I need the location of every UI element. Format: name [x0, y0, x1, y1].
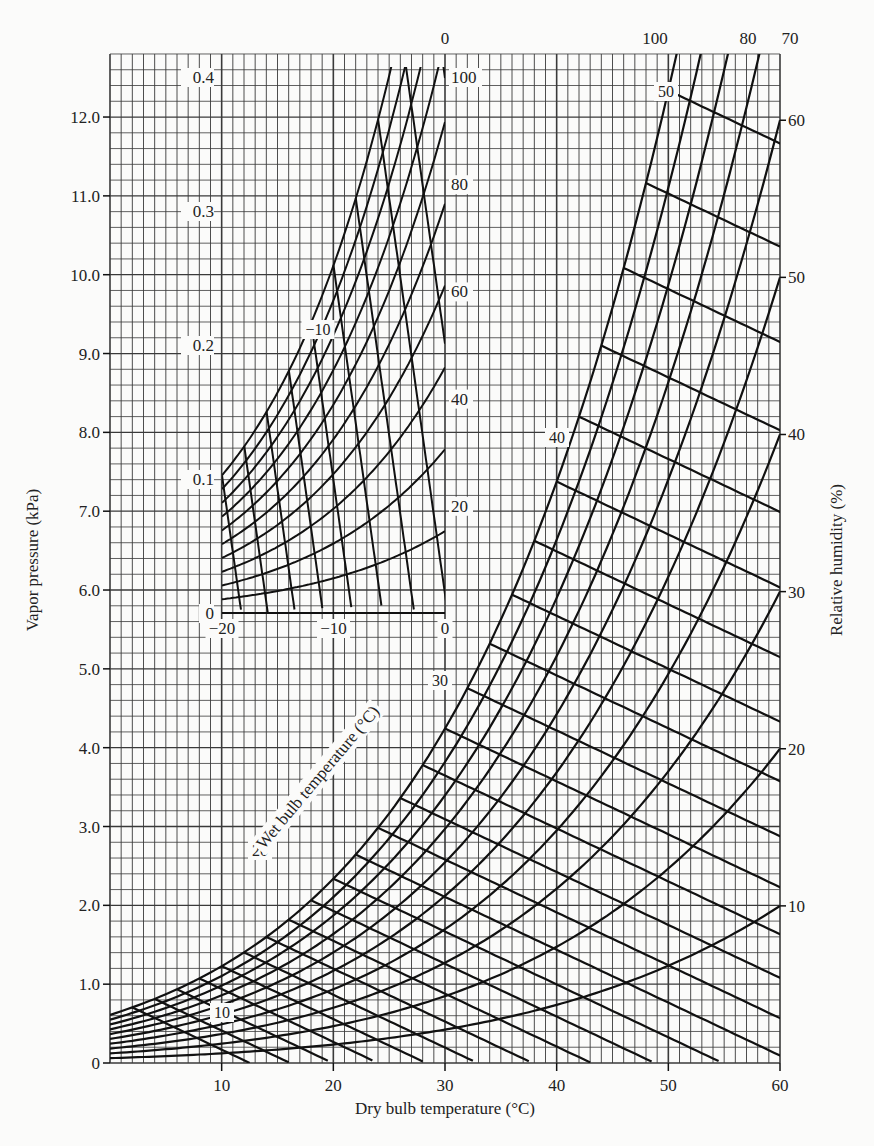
svg-text:0.3: 0.3 [193, 202, 214, 221]
inset-rh-label-80: 80 [449, 175, 473, 194]
inset-wet-bulb-line--10 [334, 265, 382, 605]
rh-label-80: 80 [740, 29, 757, 48]
svg-text:40: 40 [549, 429, 565, 446]
svg-text:0.1: 0.1 [193, 470, 214, 489]
rh-label-50: 50 [788, 268, 805, 287]
svg-text:40: 40 [451, 390, 468, 409]
inset-wet-bulb-line--14 [289, 371, 322, 608]
x-tick-label: 20 [325, 1076, 342, 1095]
inset-y-tick-label: 0.1 [181, 470, 214, 489]
svg-text:20: 20 [451, 497, 468, 516]
svg-text:0: 0 [441, 29, 450, 48]
y-tick-label: 9.0 [79, 345, 100, 364]
rh-label-70: 70 [782, 29, 799, 48]
y2-axis-title: Relative humidity (%) [827, 484, 846, 636]
rh-label-60: 60 [788, 111, 805, 130]
x-tick-label: 50 [660, 1076, 677, 1095]
x-axis-title: Dry bulb temperature (°C) [355, 1099, 535, 1118]
wet-bulb-line-18 [311, 900, 652, 1061]
y-tick-label: 5.0 [79, 660, 100, 679]
inset-y-tick-label: 0.4 [181, 68, 215, 87]
y-tick-label: 4.0 [79, 739, 100, 758]
inset-x-tick-label: −10 [317, 619, 350, 638]
inset-wet-bulb-label-minus10: −10 [302, 320, 335, 339]
y-tick-label: 0 [92, 1054, 101, 1073]
svg-text:0: 0 [441, 619, 450, 638]
inset-wet-bulb-line--8 [356, 198, 414, 609]
inset-x-tick-label: 0 [438, 619, 453, 638]
inset-wet-bulb-label-0: 0 [438, 29, 453, 48]
y-tick-label: 11.0 [71, 187, 100, 206]
svg-text:0.4: 0.4 [193, 68, 215, 87]
svg-text:−10: −10 [320, 619, 347, 638]
svg-text:100: 100 [451, 68, 477, 87]
y-axis-title: Vapor pressure (kPa) [23, 489, 42, 632]
svg-text:−10: −10 [305, 321, 330, 338]
y-tick-label: 3.0 [79, 818, 100, 837]
svg-text:30: 30 [432, 672, 448, 689]
y-tick-label: 2.0 [79, 896, 100, 915]
inset-rh-label-100: 100 [449, 68, 482, 87]
inset-rh-label-20: 20 [449, 497, 473, 516]
inset-x-tick-label: −20 [206, 619, 239, 638]
x-tick-label: 10 [213, 1076, 230, 1095]
inset-rh-label-60: 60 [449, 282, 473, 301]
y-tick-label: 12.0 [70, 108, 100, 127]
y-tick-label: 6.0 [79, 581, 100, 600]
wet-bulb-axis-title: Wet bulb temperature (°C) [253, 702, 384, 853]
rh-label-10: 10 [788, 897, 805, 916]
svg-text:50: 50 [658, 83, 674, 100]
inset-wet-bulb-line--6 [378, 119, 446, 602]
wet-bulb-label-50: 50 [654, 82, 678, 101]
y-tick-label: 8.0 [79, 423, 100, 442]
psychrometric-chart: 01.02.03.04.05.06.07.08.09.010.011.012.0… [0, 0, 874, 1146]
svg-text:60: 60 [451, 282, 468, 301]
rh-label-20: 20 [788, 740, 805, 759]
wet-bulb-label-40: 40 [545, 428, 569, 447]
x-tick-label: 30 [437, 1076, 454, 1095]
x-tick-label: 40 [548, 1076, 565, 1095]
inset-y-tick-label: 0.3 [181, 202, 214, 221]
y-tick-label: 1.0 [79, 975, 100, 994]
wet-bulb-label-30: 30 [428, 671, 452, 690]
rh-label-100: 100 [642, 29, 668, 48]
inset-rh-label-40: 40 [449, 390, 473, 409]
svg-text:10: 10 [214, 1004, 230, 1021]
svg-text:−20: −20 [209, 619, 236, 638]
y-tick-label: 7.0 [79, 502, 100, 521]
inset-wet-bulb-line--18 [244, 446, 267, 612]
svg-text:80: 80 [451, 175, 468, 194]
x-tick-label: 60 [772, 1076, 789, 1095]
inset-y-tick-label: 0.2 [181, 336, 214, 355]
svg-text:0.2: 0.2 [193, 336, 214, 355]
wet-bulb-line-22 [356, 855, 792, 1061]
rh-label-40: 40 [788, 425, 805, 444]
wet-bulb-label-10: 10 [210, 1003, 234, 1022]
rh-label-30: 30 [788, 583, 805, 602]
y-tick-label: 10.0 [70, 266, 100, 285]
